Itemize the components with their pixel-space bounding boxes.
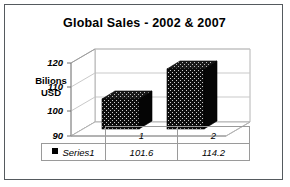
- category-cell-2: 2: [178, 127, 250, 144]
- ytick-label-110: 110: [35, 81, 63, 92]
- table-row-series1: Series1 101.6 114.2: [42, 144, 250, 161]
- chart-frame: Global Sales - 2002 & 2007: [4, 4, 283, 180]
- ytick-label-100: 100: [35, 105, 63, 116]
- legend-series1[interactable]: Series1: [42, 144, 106, 161]
- value-cell-1: 101.6: [106, 144, 178, 161]
- table-corner-cell: [42, 127, 106, 144]
- data-table: 1 2 Series1 101.6 114.2: [41, 126, 250, 161]
- ytick-label-120: 120: [35, 57, 63, 68]
- legend-series1-label: Series1: [62, 147, 94, 158]
- value-cell-2: 114.2: [178, 144, 250, 161]
- bar-series1-category2[interactable]: [167, 61, 217, 129]
- category-cell-1: 1: [106, 127, 178, 144]
- bar-series1-category1[interactable]: [102, 91, 152, 129]
- legend-swatch-icon: [52, 148, 58, 154]
- table-row-categories: 1 2: [42, 127, 250, 144]
